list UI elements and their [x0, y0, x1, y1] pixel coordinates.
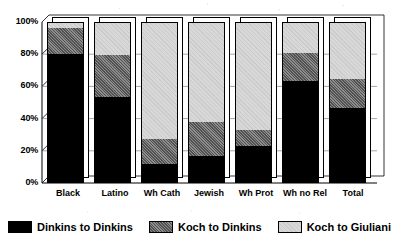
- bar-stack: [47, 22, 84, 183]
- scan-artifact-top: [0, 0, 399, 14]
- segment-koch-to-giuliani: [236, 23, 271, 130]
- legend-label: Koch to Dinkins: [178, 221, 262, 233]
- segment-koch-to-dinkins: [48, 28, 83, 55]
- segment-koch-to-giuliani: [95, 23, 130, 55]
- x-tick-label-wh-no-rel: Wh no Rel: [275, 188, 335, 198]
- bar-group-wh-no-rel: [282, 22, 319, 183]
- y-axis: 100% 80% 60% 40% 20% 0%: [0, 22, 38, 183]
- legend-label: Koch to Giuliani: [307, 221, 391, 233]
- segment-dinkins-to-dinkins: [142, 165, 177, 182]
- legend-swatch-icon: [149, 221, 173, 233]
- bar-group-wh-prot: [235, 22, 272, 183]
- bar-group-latino: [94, 22, 131, 183]
- y-tick-label: 40%: [4, 114, 38, 123]
- bar-group-wh-cath: [141, 22, 178, 183]
- x-tick-label-wh-cath: Wh Cath: [136, 188, 188, 198]
- legend-swatch-icon: [278, 221, 302, 233]
- y-tick-label: 20%: [4, 146, 38, 155]
- segment-koch-to-dinkins: [283, 53, 318, 82]
- y-tick-label: 80%: [4, 49, 38, 58]
- segment-dinkins-to-dinkins: [189, 157, 224, 182]
- segment-koch-to-giuliani: [142, 23, 177, 139]
- bar-group-total: [329, 22, 366, 183]
- legend-swatch-icon: [8, 221, 32, 233]
- segment-koch-to-giuliani: [330, 23, 365, 79]
- legend-label: Dinkins to Dinkins: [37, 221, 133, 233]
- bar-group-jewish: [188, 22, 225, 183]
- segment-koch-to-giuliani: [189, 23, 224, 122]
- bar-stack: [141, 22, 178, 183]
- x-tick-label-jewish: Jewish: [183, 188, 235, 198]
- segment-dinkins-to-dinkins: [283, 82, 318, 182]
- segment-dinkins-to-dinkins: [95, 98, 130, 182]
- segment-dinkins-to-dinkins: [236, 147, 271, 182]
- segment-koch-to-dinkins: [330, 79, 365, 109]
- bar-stack: [188, 22, 225, 183]
- bar-stack: [329, 22, 366, 183]
- chart-legend: Dinkins to Dinkins Koch to Dinkins Koch …: [0, 216, 399, 238]
- bar-stack: [235, 22, 272, 183]
- y-tick-label: 60%: [4, 81, 38, 90]
- segment-koch-to-dinkins: [236, 130, 271, 147]
- bar-group-black: [47, 22, 84, 183]
- x-tick-label-black: Black: [42, 188, 94, 198]
- bar-stack: [94, 22, 131, 183]
- segment-dinkins-to-dinkins: [330, 109, 365, 182]
- y-tick-label: 0%: [4, 178, 38, 187]
- legend-item-dinkins-to-dinkins: Dinkins to Dinkins: [8, 221, 133, 233]
- x-tick-label-total: Total: [327, 188, 379, 198]
- segment-koch-to-giuliani: [283, 23, 318, 53]
- legend-item-koch-to-dinkins: Koch to Dinkins: [149, 221, 262, 233]
- segment-koch-to-dinkins: [189, 122, 224, 157]
- stacked-bar-chart: 100% 80% 60% 40% 20% 0%: [0, 0, 399, 243]
- x-tick-label-latino: Latino: [89, 188, 141, 198]
- segment-dinkins-to-dinkins: [48, 55, 83, 182]
- bar-stack: [282, 22, 319, 183]
- segment-koch-to-dinkins: [142, 139, 177, 164]
- x-axis: Black Latino Wh Cath Jewish Wh Prot Wh n…: [42, 188, 382, 202]
- plot-area: [42, 22, 377, 183]
- legend-item-koch-to-giuliani: Koch to Giuliani: [278, 221, 391, 233]
- y-tick-label: 100%: [4, 17, 38, 26]
- segment-koch-to-dinkins: [95, 55, 130, 98]
- bar-series-container: [42, 22, 377, 183]
